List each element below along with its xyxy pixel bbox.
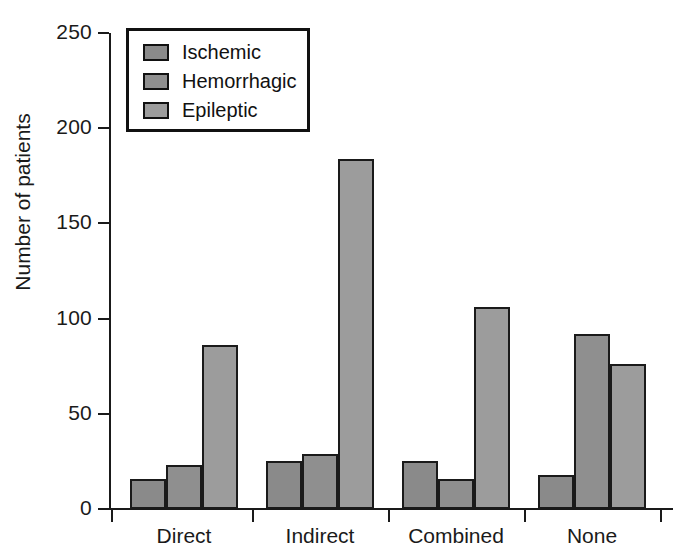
bar-none-hemorrhagic bbox=[574, 334, 610, 509]
x-tick-2 bbox=[388, 510, 390, 522]
legend-swatch-epileptic bbox=[143, 102, 169, 119]
legend-label-epileptic: Epileptic bbox=[182, 100, 258, 120]
legend-label-hemorrhagic: Hemorrhagic bbox=[182, 71, 296, 91]
bar-indirect-hemorrhagic bbox=[302, 454, 338, 509]
y-tick-50 bbox=[98, 413, 109, 415]
bar-chart-figure: 050100150200250 Number of patients Direc… bbox=[0, 0, 684, 557]
legend-swatch-ischemic bbox=[143, 44, 169, 61]
y-tick-label-250: 250 bbox=[0, 20, 92, 44]
bar-combined-ischemic bbox=[402, 461, 438, 509]
y-tick-label-0: 0 bbox=[0, 496, 92, 520]
bar-indirect-ischemic bbox=[266, 461, 302, 509]
legend-item-ischemic: Ischemic bbox=[143, 40, 261, 64]
bar-direct-epileptic bbox=[202, 345, 238, 509]
legend-label-ischemic: Ischemic bbox=[182, 42, 261, 62]
bar-none-epileptic bbox=[610, 364, 646, 509]
bar-combined-epileptic bbox=[474, 307, 510, 509]
legend-item-epileptic: Epileptic bbox=[143, 98, 258, 122]
x-tick-4 bbox=[660, 510, 662, 522]
bar-direct-hemorrhagic bbox=[166, 465, 202, 509]
legend-item-hemorrhagic: Hemorrhagic bbox=[143, 69, 296, 93]
y-tick-0 bbox=[98, 508, 109, 510]
y-tick-150 bbox=[98, 222, 109, 224]
x-tick-1 bbox=[252, 510, 254, 522]
legend-box: Ischemic Hemorrhagic Epileptic bbox=[126, 28, 310, 132]
y-tick-label-50: 50 bbox=[0, 401, 92, 425]
bar-none-ischemic bbox=[538, 475, 574, 509]
y-tick-200 bbox=[98, 127, 109, 129]
x-tick-0 bbox=[111, 510, 113, 522]
y-tick-100 bbox=[98, 318, 109, 320]
y-axis-title: Number of patients bbox=[11, 87, 35, 317]
bar-indirect-epileptic bbox=[338, 159, 374, 509]
x-tick-3 bbox=[524, 510, 526, 522]
bar-direct-ischemic bbox=[130, 479, 166, 509]
x-axis-label-none: None bbox=[512, 524, 672, 548]
y-tick-250 bbox=[98, 32, 109, 34]
legend-swatch-hemorrhagic bbox=[143, 73, 169, 90]
bar-combined-hemorrhagic bbox=[438, 479, 474, 509]
